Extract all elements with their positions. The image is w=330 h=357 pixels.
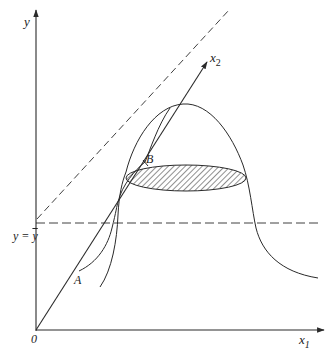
origin-label: 0 xyxy=(31,332,37,347)
y-bar-label: y = y xyxy=(7,214,38,244)
x2-axis xyxy=(36,62,207,330)
x1-axis-label: x1 xyxy=(299,332,310,350)
x2-axis-label: x2 xyxy=(210,50,221,68)
y-axis-label: y xyxy=(24,14,30,30)
surface-outline-curve xyxy=(100,104,318,287)
surface-diagram xyxy=(0,0,330,357)
y-bar-label-right: y xyxy=(32,229,37,243)
point-b-label: B xyxy=(146,152,153,167)
point-a-label: A xyxy=(74,273,81,288)
x1-label-sub: 1 xyxy=(305,339,310,350)
y-bar-label-left: y = xyxy=(13,229,32,243)
level-set-ellipse xyxy=(126,165,246,191)
x2-label-sub: 2 xyxy=(216,57,221,68)
